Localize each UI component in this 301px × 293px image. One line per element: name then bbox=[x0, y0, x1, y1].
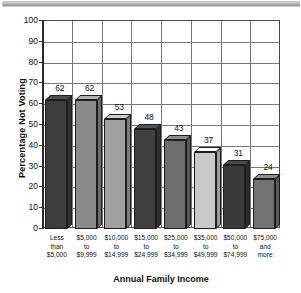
bar-side-face bbox=[126, 114, 131, 229]
bar-value-label: 43 bbox=[159, 123, 199, 133]
bar-front-face bbox=[104, 119, 126, 229]
bar-front-face bbox=[194, 152, 216, 229]
bar-front-face bbox=[164, 140, 186, 229]
bar-front-face bbox=[134, 129, 156, 229]
bar-front-face bbox=[253, 179, 275, 229]
bar-value-label: 24 bbox=[248, 162, 288, 172]
x-tick-label-8: $75,000andmore bbox=[246, 234, 284, 260]
bar-8[interactable]: 24 bbox=[253, 160, 275, 229]
y-tick-60: 60 bbox=[14, 98, 38, 108]
bar-side-face bbox=[275, 174, 280, 229]
bar-chart: Percentage Not Voting 100908070605040302… bbox=[0, 8, 301, 293]
y-tick-10: 10 bbox=[14, 202, 38, 212]
bar-6[interactable]: 37 bbox=[194, 133, 216, 229]
bar-side-face bbox=[67, 95, 72, 229]
y-tick-30: 30 bbox=[14, 161, 38, 171]
bar-3[interactable]: 53 bbox=[104, 100, 126, 229]
x-tick-line: more bbox=[246, 251, 284, 260]
bar-side-face bbox=[216, 147, 221, 229]
x-axis-title: Annual Family Income bbox=[42, 274, 280, 284]
y-tick-50: 50 bbox=[14, 119, 38, 129]
bar-front-face bbox=[223, 165, 245, 229]
y-tick-40: 40 bbox=[14, 140, 38, 150]
y-tick-70: 70 bbox=[14, 77, 38, 87]
bar-7[interactable]: 31 bbox=[223, 146, 245, 229]
bar-5[interactable]: 43 bbox=[164, 121, 186, 229]
y-axis-tick-labels: 1009080706050403020100 bbox=[14, 20, 38, 228]
bar-2[interactable]: 62 bbox=[75, 81, 97, 229]
bar-value-label: 37 bbox=[189, 135, 229, 145]
bar-side-face bbox=[97, 95, 102, 229]
y-tick-80: 80 bbox=[14, 57, 38, 67]
bar-value-label: 62 bbox=[70, 83, 110, 93]
y-tick-20: 20 bbox=[14, 181, 38, 191]
bar-front-face bbox=[45, 100, 67, 229]
y-tick-90: 90 bbox=[14, 36, 38, 46]
bar-1[interactable]: 62 bbox=[45, 81, 67, 229]
top-divider-rule bbox=[2, 1, 300, 7]
y-tick-100: 100 bbox=[14, 15, 38, 25]
bar-front-face bbox=[75, 100, 97, 229]
x-axis-tick-labels: Lessthan$5,000$5,000to$9,999$10,000to$14… bbox=[42, 234, 280, 270]
bar-side-face bbox=[156, 125, 161, 229]
y-tick-0: 0 bbox=[14, 223, 38, 233]
bar-value-label: 31 bbox=[218, 148, 258, 158]
x-tick-line: $75,000 bbox=[246, 234, 284, 243]
bar-series: 6262534843373124 bbox=[42, 20, 280, 229]
x-tick-line: and bbox=[246, 243, 284, 252]
bar-4[interactable]: 48 bbox=[134, 110, 156, 229]
bar-side-face bbox=[186, 135, 191, 229]
